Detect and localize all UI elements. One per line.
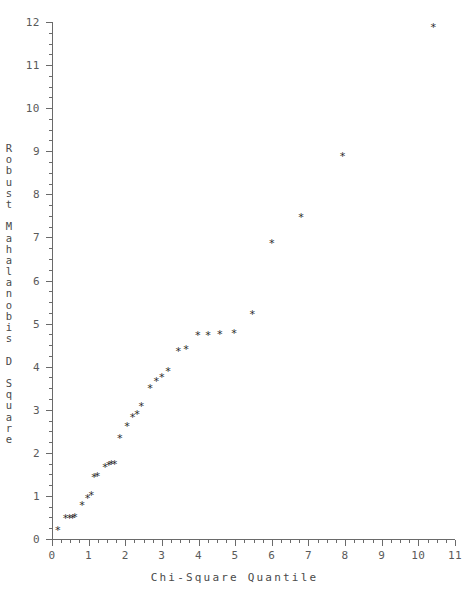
y-tick-minor: [49, 54, 52, 55]
y-tick-minor: [49, 76, 52, 77]
x-tick-minor: [144, 540, 145, 543]
y-axis-title-char: D: [2, 356, 16, 367]
y-tick-label: 11: [14, 60, 40, 71]
y-axis-title-char: b: [2, 165, 16, 176]
y-tick-minor: [49, 485, 52, 486]
y-tick-label: 1: [14, 490, 40, 501]
data-point-marker: *: [193, 330, 202, 341]
x-tick-major: [235, 540, 236, 546]
data-point-marker: *: [248, 309, 257, 320]
y-axis-title-char: e: [2, 434, 16, 445]
x-tick-minor: [428, 540, 429, 543]
y-tick-major: [46, 108, 52, 109]
y-tick-major: [46, 410, 52, 411]
x-tick-minor: [254, 540, 255, 543]
y-tick-minor: [49, 162, 52, 163]
x-tick-label: 0: [48, 550, 55, 561]
y-tick-minor: [49, 205, 52, 206]
y-tick-minor: [49, 184, 52, 185]
y-tick-label: 0: [14, 534, 40, 545]
y-tick-minor: [49, 227, 52, 228]
y-tick-minor: [49, 399, 52, 400]
x-tick-minor: [189, 540, 190, 543]
x-tick-major: [162, 540, 163, 546]
x-tick-label: 6: [268, 550, 275, 561]
y-tick-label: 4: [14, 361, 40, 372]
y-axis-title-char: a: [2, 412, 16, 423]
x-tick-minor: [208, 540, 209, 543]
y-tick-minor: [49, 345, 52, 346]
x-tick-major: [418, 540, 419, 546]
y-tick-minor: [49, 507, 52, 508]
y-tick-label: 9: [14, 146, 40, 157]
data-point-marker: *: [182, 344, 191, 355]
y-tick-label: 10: [14, 103, 40, 114]
y-tick-major: [46, 453, 52, 454]
y-axis-title-char: u: [2, 400, 16, 411]
y-tick-label: 6: [14, 275, 40, 286]
x-tick-label: 1: [85, 550, 92, 561]
y-tick-minor: [49, 173, 52, 174]
y-tick-label: 2: [14, 447, 40, 458]
x-tick-label: 5: [232, 550, 239, 561]
x-tick-minor: [107, 540, 108, 543]
y-axis-title-char: n: [2, 288, 16, 299]
x-tick-major: [455, 540, 456, 546]
y-tick-label: 7: [14, 232, 40, 243]
x-tick-minor: [217, 540, 218, 543]
y-tick-minor: [49, 130, 52, 131]
x-tick-major: [125, 540, 126, 546]
x-tick-minor: [336, 540, 337, 543]
y-axis-title-char: t: [2, 199, 16, 210]
y-tick-minor: [49, 119, 52, 120]
y-tick-minor: [49, 302, 52, 303]
data-point-marker: *: [53, 525, 62, 536]
x-tick-major: [272, 540, 273, 546]
x-tick-minor: [354, 540, 355, 543]
x-tick-minor: [318, 540, 319, 543]
data-point-marker: *: [204, 330, 213, 341]
x-tick-minor: [244, 540, 245, 543]
y-tick-label: 8: [14, 189, 40, 200]
y-tick-minor: [49, 44, 52, 45]
data-point-marker: *: [297, 212, 306, 223]
y-tick-minor: [49, 33, 52, 34]
y-tick-minor: [49, 431, 52, 432]
x-tick-minor: [263, 540, 264, 543]
x-tick-minor: [446, 540, 447, 543]
x-tick-minor: [327, 540, 328, 543]
x-tick-minor: [391, 540, 392, 543]
y-tick-minor: [49, 87, 52, 88]
y-tick-minor: [49, 377, 52, 378]
y-tick-minor: [49, 248, 52, 249]
y-tick-minor: [49, 388, 52, 389]
x-tick-minor: [134, 540, 135, 543]
y-axis-title-char: a: [2, 233, 16, 244]
y-tick-minor: [49, 216, 52, 217]
y-tick-major: [46, 22, 52, 23]
data-point-marker: *: [93, 471, 102, 482]
y-tick-minor: [49, 517, 52, 518]
y-tick-major: [46, 237, 52, 238]
x-tick-label: 10: [411, 550, 425, 561]
y-axis-title-char: M: [2, 221, 16, 232]
x-tick-minor: [98, 540, 99, 543]
y-tick-minor: [49, 313, 52, 314]
y-tick-minor: [49, 464, 52, 465]
y-axis-title-char: s: [2, 333, 16, 344]
y-tick-major: [46, 281, 52, 282]
y-tick-minor: [49, 442, 52, 443]
data-point-marker: *: [164, 366, 173, 377]
y-tick-major: [46, 324, 52, 325]
x-tick-label: 11: [448, 550, 462, 561]
x-tick-minor: [363, 540, 364, 543]
x-tick-minor: [61, 540, 62, 543]
y-tick-minor: [49, 356, 52, 357]
x-tick-label: 4: [195, 550, 202, 561]
x-tick-minor: [70, 540, 71, 543]
x-tick-major: [382, 540, 383, 546]
y-tick-minor: [49, 140, 52, 141]
data-point-marker: *: [267, 238, 276, 249]
y-tick-major: [46, 65, 52, 66]
y-tick-label: 3: [14, 404, 40, 415]
